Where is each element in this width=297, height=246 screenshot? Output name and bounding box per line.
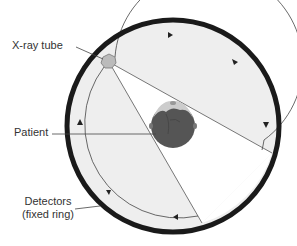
label-detectors-line2: (fixed ring): [22, 208, 74, 221]
leader-detectors: [75, 206, 100, 209]
label-detectors: Detectors (fixed ring): [22, 195, 74, 221]
label-xray-tube: X-ray tube: [12, 39, 63, 52]
label-patient: Patient: [14, 126, 48, 139]
label-detectors-line1: Detectors: [22, 195, 74, 208]
